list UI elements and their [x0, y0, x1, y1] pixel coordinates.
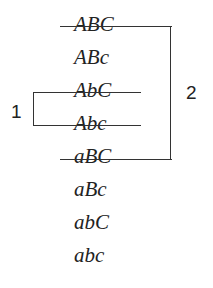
bracket-2-top-line — [60, 26, 172, 27]
row-ABc: ABc — [74, 45, 109, 69]
bracket-1-top-line — [33, 92, 141, 93]
row-aBC: aBC — [74, 144, 111, 168]
row-abC: abC — [74, 210, 109, 234]
row-Abc: Abc — [74, 111, 107, 135]
bracket-2-bottom-line — [60, 159, 172, 160]
bracket-1-bottom-line — [33, 125, 141, 126]
bracket-1-vertical — [33, 92, 34, 126]
row-AbC: AbC — [74, 78, 111, 102]
bracket-2-vertical — [170, 26, 171, 160]
row-abc: abc — [74, 243, 104, 267]
bracket-2-label: 2 — [186, 83, 197, 103]
bracket-1-label: 1 — [11, 102, 22, 122]
row-ABC: ABC — [74, 12, 114, 36]
row-aBc: aBc — [74, 177, 107, 201]
